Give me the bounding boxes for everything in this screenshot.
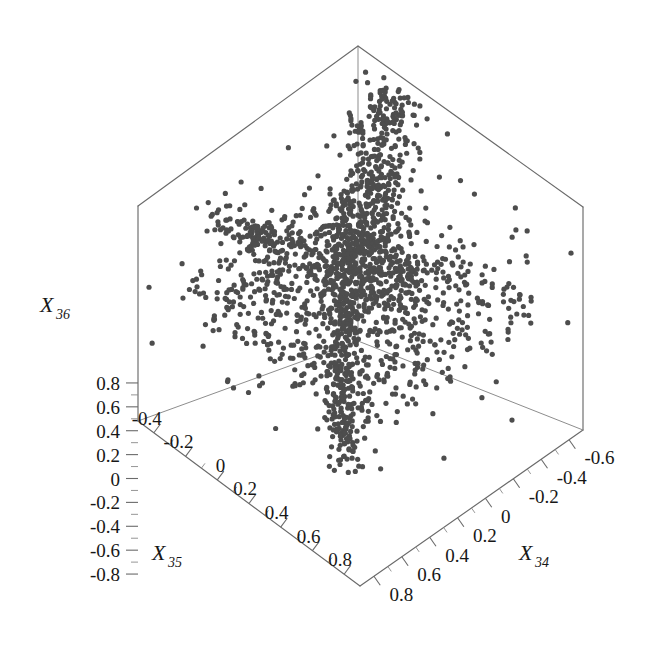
data-point	[440, 270, 445, 275]
data-point	[406, 230, 411, 235]
data-point	[360, 136, 365, 141]
data-point	[249, 281, 254, 286]
data-point	[292, 296, 297, 301]
data-point	[361, 424, 366, 429]
data-point	[393, 129, 398, 134]
data-point	[332, 259, 337, 264]
data-point	[409, 333, 414, 338]
data-point	[269, 321, 274, 326]
data-point	[200, 344, 205, 349]
data-point	[347, 394, 352, 399]
data-point	[302, 192, 307, 197]
data-point	[237, 250, 242, 255]
data-point	[378, 466, 383, 471]
tick-major	[485, 498, 491, 507]
data-point	[245, 221, 250, 226]
data-point	[315, 343, 320, 348]
data-point	[360, 256, 365, 261]
data-point	[327, 267, 332, 272]
data-point	[360, 160, 365, 165]
data-point	[509, 417, 514, 422]
data-point	[363, 249, 368, 254]
axis-title-x35-base: X	[151, 540, 167, 565]
data-point	[453, 283, 458, 288]
data-point	[390, 157, 395, 162]
data-point	[479, 280, 484, 285]
data-point	[441, 275, 446, 280]
data-point	[187, 287, 192, 292]
data-point	[359, 123, 364, 128]
data-point	[304, 280, 309, 285]
data-point	[319, 294, 324, 299]
data-point	[261, 235, 266, 240]
data-point	[350, 424, 355, 429]
data-point	[343, 202, 348, 207]
data-point	[368, 278, 373, 283]
data-point	[388, 176, 393, 181]
data-point	[218, 264, 223, 269]
data-point	[375, 268, 380, 273]
data-point	[337, 400, 342, 405]
data-point	[429, 268, 434, 273]
data-point	[354, 429, 359, 434]
data-point	[382, 379, 387, 384]
data-point	[245, 326, 250, 331]
data-point	[433, 285, 438, 290]
tick-label: 0.2	[473, 525, 497, 546]
data-point	[322, 312, 327, 317]
axis-title-x36-base: X	[39, 292, 55, 317]
data-point	[371, 256, 376, 261]
data-point	[435, 266, 440, 271]
data-point	[240, 287, 245, 292]
data-point	[380, 260, 385, 265]
data-point	[349, 300, 354, 305]
data-point	[395, 201, 400, 206]
data-point	[447, 225, 452, 230]
data-point	[483, 264, 488, 269]
data-point	[331, 320, 336, 325]
data-point	[379, 273, 384, 278]
data-point	[273, 426, 278, 431]
data-point	[458, 264, 463, 269]
data-point	[359, 405, 364, 410]
data-point	[465, 302, 470, 307]
data-point	[357, 329, 362, 334]
data-point	[400, 103, 405, 108]
data-point	[334, 284, 339, 289]
data-point	[414, 279, 419, 284]
data-point	[480, 345, 485, 350]
data-point	[260, 380, 265, 385]
data-point	[402, 282, 407, 287]
data-point	[374, 339, 379, 344]
data-point	[494, 379, 499, 384]
data-point	[271, 260, 276, 265]
data-point	[487, 317, 492, 322]
data-point	[448, 379, 453, 384]
data-point	[291, 343, 296, 348]
data-point	[430, 322, 435, 327]
data-point	[238, 235, 243, 240]
data-point	[398, 270, 403, 275]
data-point	[336, 447, 341, 452]
data-point	[374, 374, 379, 379]
data-point	[421, 339, 426, 344]
data-point	[378, 152, 383, 157]
data-point	[398, 234, 403, 239]
data-point	[392, 209, 397, 214]
data-point	[322, 349, 327, 354]
data-point	[479, 395, 484, 400]
data-point	[278, 249, 283, 254]
data-point	[393, 391, 398, 396]
data-point	[298, 229, 303, 234]
data-point	[364, 222, 369, 227]
data-point	[239, 179, 244, 184]
data-point	[311, 293, 316, 298]
data-point	[403, 320, 408, 325]
data-point	[276, 340, 281, 345]
data-point	[348, 342, 353, 347]
data-point	[361, 319, 366, 324]
data-point	[347, 436, 352, 441]
data-point	[344, 291, 349, 296]
data-point	[384, 131, 389, 136]
data-point	[365, 189, 370, 194]
